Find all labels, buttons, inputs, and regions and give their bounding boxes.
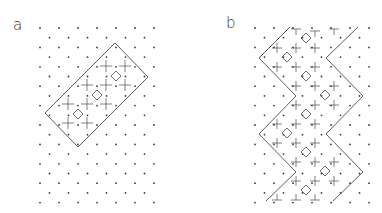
lattice-dot [49, 192, 51, 194]
lattice-dot [153, 27, 155, 29]
cross-mark [272, 119, 282, 129]
lattice-dot [115, 66, 117, 68]
lattice-dot [153, 47, 155, 49]
lattice-dot [87, 192, 89, 194]
lattice-dot [96, 182, 98, 184]
lattice-dot [153, 66, 155, 68]
lattice-dot [321, 76, 323, 78]
lattice-dot [96, 47, 98, 49]
cross-mark [310, 81, 320, 91]
lattice-dot [87, 114, 89, 116]
lattice-dot [144, 114, 146, 116]
lattice-dot [68, 134, 70, 136]
lattice-dot [96, 202, 98, 204]
lattice-dot [115, 105, 117, 107]
lattice-dot [153, 182, 155, 184]
diamond-mark [111, 71, 121, 81]
lattice-dot [264, 95, 266, 97]
lattice-dot [125, 95, 127, 97]
cross-mark [100, 98, 112, 110]
lattice-dot [106, 173, 108, 175]
lattice-dot [77, 182, 79, 184]
cross-mark [329, 100, 339, 110]
zigzag-right-outline [326, 27, 363, 201]
lattice-dot [359, 134, 361, 136]
lattice-dot [58, 27, 60, 29]
lattice-dot [153, 85, 155, 87]
lattice-dot [153, 202, 155, 204]
diamond-mark [282, 128, 292, 138]
lattice-dot [368, 182, 370, 184]
lattice-dot [115, 85, 117, 87]
lattice-dot [96, 66, 98, 68]
lattice-dot [144, 56, 146, 58]
cross-mark [62, 117, 74, 129]
lattice-dot [144, 192, 146, 194]
lattice-dot [273, 163, 275, 165]
lattice-dot [283, 192, 285, 194]
cross-mark [272, 62, 282, 72]
lattice-dot [115, 124, 117, 126]
lattice-dot [68, 173, 70, 175]
lattice-dot [68, 153, 70, 155]
lattice-dot [153, 105, 155, 107]
lattice-dot [273, 27, 275, 29]
lattice-dot [349, 27, 351, 29]
lattice-dot [254, 105, 256, 107]
lattice-dot [87, 37, 89, 39]
lattice-dot [368, 66, 370, 68]
lattice-dot [368, 144, 370, 146]
cross-mark [310, 43, 320, 53]
cross-mark [329, 176, 339, 186]
lattice-dot [349, 105, 351, 107]
lattice-dot [39, 202, 41, 204]
lattice-dot [87, 134, 89, 136]
lattice-dot [292, 163, 294, 165]
lattice-dot [349, 85, 351, 87]
lattice-dot [283, 173, 285, 175]
cross-mark [310, 119, 320, 129]
lattice-dot [39, 105, 41, 107]
lattice-dot [39, 47, 41, 49]
lattice-dot [273, 85, 275, 87]
lattice-dot [96, 124, 98, 126]
lattice-dot [264, 134, 266, 136]
lattice-dot [125, 173, 127, 175]
lattice-dot [77, 27, 79, 29]
lattice-dot [58, 124, 60, 126]
cross-mark [119, 60, 131, 72]
lattice-dot [311, 124, 313, 126]
lattice-dot [359, 76, 361, 78]
lattice-dot [359, 153, 361, 155]
lattice-dot [87, 153, 89, 155]
lattice-dot [330, 144, 332, 146]
lattice-dot [321, 37, 323, 39]
cross-mark [291, 81, 301, 91]
lattice-dot [340, 56, 342, 58]
lattice-dot [254, 124, 256, 126]
lattice-dot [58, 85, 60, 87]
lattice-dot [330, 27, 332, 29]
lattice-dot [340, 95, 342, 97]
cross-mark [310, 100, 320, 110]
lattice-dot [283, 76, 285, 78]
cross-mark [291, 157, 301, 167]
lattice-dot [283, 153, 285, 155]
lattice-dot [125, 114, 127, 116]
lattice-dot [77, 163, 79, 165]
lattice-dot [144, 173, 146, 175]
lattice-dot [264, 173, 266, 175]
lattice-dot [292, 202, 294, 204]
lattice-dot [264, 37, 266, 39]
lattice-dot [77, 144, 79, 146]
lattice-dot [254, 66, 256, 68]
lattice-dot [311, 27, 313, 29]
lattice-diagram [0, 0, 382, 213]
lattice-dot [39, 85, 41, 87]
lattice-dot [58, 66, 60, 68]
lattice-dot [77, 202, 79, 204]
lattice-dot [368, 163, 370, 165]
lattice-dot [264, 192, 266, 194]
lattice-dot [273, 105, 275, 107]
lattice-dot [311, 163, 313, 165]
